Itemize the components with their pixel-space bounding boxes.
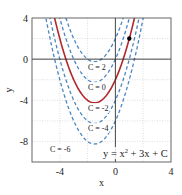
curve-c-6	[32, 0, 171, 144]
y-tick-label: -8	[20, 136, 28, 147]
x-tick-label: 4	[169, 166, 174, 177]
curve-label: C = -2	[88, 104, 109, 113]
equation-label: y = x2 + 3x + C	[103, 147, 168, 159]
curve-labels: C = 2C = 0C = -2C = -4C = -6	[49, 62, 110, 154]
curve-label: C = 0	[88, 83, 106, 92]
x-tick-label: 0	[113, 166, 118, 177]
curve-label: C = -6	[50, 145, 71, 154]
x-axis-label: x	[99, 177, 104, 188]
chart: -40440-4-8 C = 2C = 0C = -2C = -4C = -6 …	[0, 0, 182, 195]
curve-label: C = -4	[88, 124, 109, 133]
y-tick-label: 0	[23, 54, 28, 65]
curve-c2	[32, 0, 171, 62]
curves	[32, 0, 171, 144]
y-axis-label: y	[3, 88, 14, 93]
curve-label: C = 2	[88, 63, 106, 72]
x-tick-label: -4	[56, 166, 64, 177]
y-tick-label: -4	[20, 95, 28, 106]
y-tick-label: 4	[23, 13, 28, 24]
highlight-point	[127, 36, 131, 40]
